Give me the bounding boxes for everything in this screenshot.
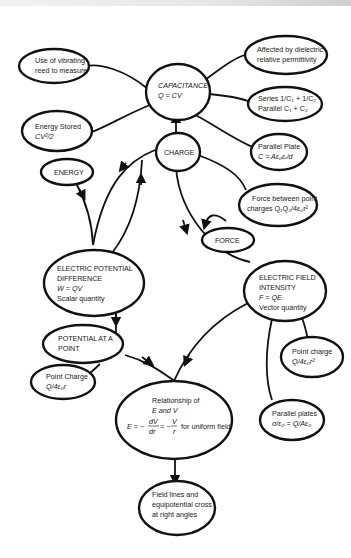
svg-text:at right angles: at right angles bbox=[152, 510, 198, 519]
svg-text:ENERGY: ENERGY bbox=[54, 168, 84, 177]
edge-capacitance-parallel-plate bbox=[190, 112, 255, 148]
svg-text:INTENSITY: INTENSITY bbox=[259, 283, 296, 292]
node-potential-difference: ELECTRIC POTENTIAL DIFFERENCE W = QV Sca… bbox=[44, 250, 144, 316]
node-charge: CHARGE bbox=[156, 133, 200, 171]
eq-suffix: for uniform field bbox=[181, 422, 231, 431]
edge-energy-potential bbox=[76, 183, 93, 245]
svg-text:POINT: POINT bbox=[58, 344, 80, 353]
svg-text:F = QE: F = QE bbox=[259, 293, 282, 302]
node-point-charge-field: Point charge Q/4ε₀r² bbox=[281, 337, 343, 377]
edge-field-parallel-plates bbox=[267, 319, 272, 400]
node-capacitance: CAPACITANCE Q = CV bbox=[146, 64, 210, 120]
svg-text:Use of vibrating: Use of vibrating bbox=[35, 56, 85, 65]
edge-field-relationship bbox=[174, 303, 248, 381]
svg-text:reed to measure: reed to measure bbox=[35, 66, 87, 75]
svg-text:CAPACITANCE: CAPACITANCE bbox=[158, 81, 208, 90]
svg-text:equipotential cross: equipotential cross bbox=[152, 500, 212, 509]
eq-prefix: E = − bbox=[127, 422, 144, 431]
edge-arrow-charge-field bbox=[183, 220, 186, 230]
svg-text:C = Aε₀εᵣ/d: C = Aε₀εᵣ/d bbox=[258, 152, 294, 161]
node-potential-at-point: POTENTIAL AT A POINT bbox=[43, 325, 123, 363]
svg-text:W = QV: W = QV bbox=[57, 284, 84, 293]
svg-text:ELECTRIC POTENTIAL: ELECTRIC POTENTIAL bbox=[57, 264, 133, 273]
svg-text:Affected by dielectric: Affected by dielectric bbox=[257, 45, 324, 54]
svg-text:Parallel Plate: Parallel Plate bbox=[258, 142, 300, 151]
eq-den1: dr bbox=[149, 427, 156, 436]
concept-map: Use of vibrating reed to measure CAPACIT… bbox=[0, 0, 351, 558]
svg-text:POTENTIAL AT A: POTENTIAL AT A bbox=[58, 334, 113, 343]
svg-text:Q/4ε₀r: Q/4ε₀r bbox=[46, 382, 67, 391]
svg-text:Point Charge: Point Charge bbox=[46, 372, 88, 381]
node-parallel-plates-field: Parallel plates σ/ε₀ = Q/Aε₀ bbox=[260, 400, 324, 440]
node-series-parallel: Series 1/C₁ + 1/C₂ Parallel C₁ + C₂ bbox=[248, 87, 322, 121]
svg-text:charges Q₁Q₂/4ε₀r²: charges Q₁Q₂/4ε₀r² bbox=[247, 204, 309, 213]
eq-num1: dV bbox=[149, 417, 159, 426]
edge-force-loop bbox=[205, 215, 226, 225]
svg-text:CHARGE: CHARGE bbox=[164, 148, 194, 157]
node-relationship: Relationship of E and V E = − dV dr = − … bbox=[116, 381, 232, 459]
edge-capacitance-vibrating-reed bbox=[86, 65, 148, 89]
edge-charge-force-point bbox=[198, 155, 246, 190]
node-field-lines: Field lines and equipotential cross at r… bbox=[139, 481, 215, 535]
svg-text:CV²/2: CV²/2 bbox=[35, 132, 53, 141]
svg-text:E and V: E and V bbox=[152, 406, 179, 415]
edge-capacitance-dielectric bbox=[205, 55, 245, 80]
node-force-point-charges: Force between point charges Q₁Q₂/4ε₀r² bbox=[239, 184, 317, 226]
svg-text:σ/ε₀ = Q/Aε₀: σ/ε₀ = Q/Aε₀ bbox=[272, 419, 311, 428]
node-dielectric: Affected by dielectric relative permitti… bbox=[245, 36, 327, 74]
svg-text:Relationship of: Relationship of bbox=[152, 396, 200, 405]
svg-text:DIFFERENCE: DIFFERENCE bbox=[57, 274, 102, 283]
svg-text:Field lines and: Field lines and bbox=[152, 490, 198, 499]
svg-text:Vector quantity: Vector quantity bbox=[259, 303, 307, 312]
node-parallel-plate: Parallel Plate C = Aε₀εᵣ/d bbox=[251, 134, 307, 170]
edge-arrow-charge-pot bbox=[122, 163, 126, 168]
node-field-intensity: ELECTRIC FIELD INTENSITY F = QE Vector q… bbox=[244, 261, 326, 321]
edge-capacitance-series-parallel bbox=[209, 94, 248, 101]
svg-text:Series 1/C₁ + 1/C₂: Series 1/C₁ + 1/C₂ bbox=[258, 94, 316, 103]
edge-potential-at-point-relationship bbox=[125, 355, 175, 381]
svg-text:Point charge: Point charge bbox=[292, 347, 332, 356]
node-force: FORCE bbox=[202, 228, 254, 252]
edge-capacitance-energy-stored bbox=[92, 105, 150, 132]
node-vibrating-reed: Use of vibrating reed to measure bbox=[19, 49, 89, 83]
svg-text:relative permittivity: relative permittivity bbox=[257, 55, 317, 64]
eq-mid: = − bbox=[160, 422, 170, 431]
svg-text:Q = CV: Q = CV bbox=[158, 91, 183, 100]
node-point-charge-potential: Point Charge Q/4ε₀r bbox=[31, 365, 95, 399]
svg-text:Force between point: Force between point bbox=[252, 194, 317, 203]
edge-potential-charge bbox=[112, 160, 142, 253]
node-energy-stored: Energy Stored CV²/2 bbox=[22, 111, 92, 151]
node-energy: ENERGY bbox=[41, 159, 93, 185]
svg-text:Scalar quantity: Scalar quantity bbox=[57, 294, 105, 303]
svg-text:Parallel C₁ + C₂: Parallel C₁ + C₂ bbox=[258, 104, 308, 113]
svg-text:Q/4ε₀r²: Q/4ε₀r² bbox=[292, 357, 315, 366]
svg-text:Parallel plates: Parallel plates bbox=[272, 409, 318, 418]
svg-text:ELECTRIC FIELD: ELECTRIC FIELD bbox=[259, 273, 316, 282]
svg-text:FORCE: FORCE bbox=[215, 236, 240, 245]
svg-text:Energy Stored: Energy Stored bbox=[35, 122, 81, 131]
